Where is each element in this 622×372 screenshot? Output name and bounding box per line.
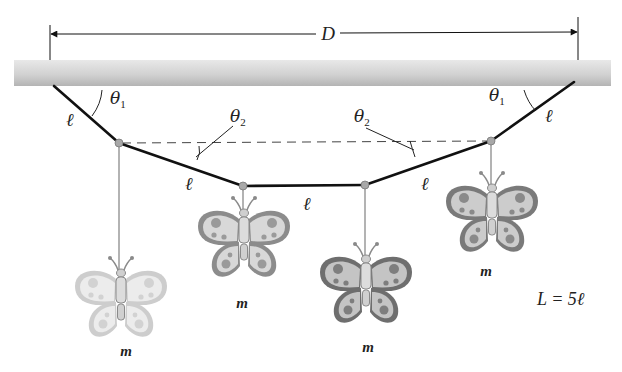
angle-arc-theta1-left (92, 90, 102, 116)
segment-label-3: ℓ (303, 194, 311, 214)
node-4 (487, 137, 495, 145)
leader-theta2-left (196, 126, 233, 157)
theta2-right-label: θ2 (354, 106, 370, 128)
leader-theta2-right (366, 128, 414, 150)
butterfly-icon-2 (198, 196, 290, 277)
node-2 (239, 182, 247, 190)
theta2-left-label: θ2 (230, 106, 246, 128)
ceiling-bar (14, 60, 611, 86)
node-3 (361, 181, 369, 189)
dimension-d: D (50, 17, 578, 62)
total-length-equation: L = 5ℓ (536, 289, 585, 309)
segment-label-1: ℓ (66, 110, 74, 130)
dimension-label: D (320, 23, 335, 44)
segment-label-4: ℓ (421, 174, 429, 194)
mass-label-3: m (362, 339, 374, 355)
dimension-arrow-right (340, 32, 577, 33)
string-segment-3 (243, 185, 365, 186)
angle-arc-theta2-left (197, 146, 200, 160)
segment-label-2: ℓ (185, 174, 193, 194)
mass-label-2: m (236, 295, 248, 311)
theta1-left-label: θ1 (110, 88, 126, 110)
string-segment-5 (491, 82, 574, 141)
theta1-right-label: θ1 (489, 85, 505, 107)
butterfly-icon-1 (75, 256, 167, 337)
string-segment-2 (119, 143, 243, 186)
butterfly-icon-4 (446, 171, 538, 252)
horizontal-reference-dashed-line (122, 141, 488, 143)
angle-arc-theta1-right (524, 90, 536, 111)
mass-label-1: m (120, 343, 132, 359)
butterfly-mobile-diagram: D θ1 θ2 θ2 θ1 ℓ ℓ ℓ ℓ ℓ (0, 0, 622, 372)
mass-label-4: m (480, 263, 492, 279)
butterfly-icon-3 (320, 242, 412, 323)
node-1 (115, 139, 123, 147)
segment-label-5: ℓ (545, 106, 553, 126)
